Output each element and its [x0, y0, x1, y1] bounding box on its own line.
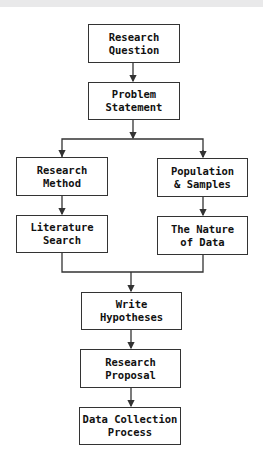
node-write-hypotheses: Write Hypotheses	[81, 292, 182, 330]
node-label: Statement	[106, 101, 163, 114]
node-label: & Samples	[174, 178, 231, 191]
node-label: of Data	[180, 236, 224, 249]
node-nature-of-data: The Nature of Data	[157, 216, 248, 255]
node-data-collection: Data Collection Process	[79, 407, 181, 445]
node-population-samples: Population & Samples	[157, 158, 248, 197]
node-label: Research	[109, 31, 160, 44]
node-label: Data Collection	[83, 413, 178, 426]
node-research-method: Research Method	[16, 157, 108, 196]
node-research-question: Research Question	[88, 24, 180, 63]
node-label: Research	[105, 356, 156, 369]
node-research-proposal: Research Proposal	[80, 349, 181, 388]
node-label: Proposal	[105, 369, 156, 382]
node-label: Write	[116, 298, 148, 311]
node-label: Hypotheses	[100, 311, 163, 324]
node-label: The Nature	[171, 223, 234, 236]
node-label: Literature	[30, 221, 93, 234]
node-literature-search: Literature Search	[16, 215, 108, 253]
node-label: Population	[171, 165, 234, 178]
node-problem-statement: Problem Statement	[88, 82, 180, 120]
node-label: Process	[108, 426, 152, 439]
node-label: Search	[43, 234, 81, 247]
node-label: Research	[37, 164, 88, 177]
node-label: Problem	[112, 88, 156, 101]
node-label: Question	[109, 44, 160, 57]
node-label: Method	[43, 177, 81, 190]
